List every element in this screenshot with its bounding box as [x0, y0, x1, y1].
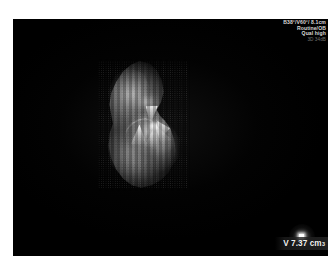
volume-measurement-value: V 7.37 cm [283, 239, 322, 248]
volume-body-layer [98, 61, 188, 189]
volume-convergence-star [144, 117, 164, 135]
ultrasound-viewport[interactable]: B38°/V60°/ 8.1cm Routine/OB Qual high 3D… [13, 19, 328, 256]
volume-measurement-label: V 7.37 cm3 [275, 237, 328, 250]
volume-render-stage[interactable] [13, 19, 328, 256]
acq-line-mode-gain: 3D 34dB [283, 37, 326, 43]
rendered-volume[interactable] [98, 61, 188, 189]
screenshot-page: B38°/V60°/ 8.1cm Routine/OB Qual high 3D… [0, 0, 328, 264]
acquisition-parameters-overlay: B38°/V60°/ 8.1cm Routine/OB Qual high 3D… [283, 20, 326, 42]
